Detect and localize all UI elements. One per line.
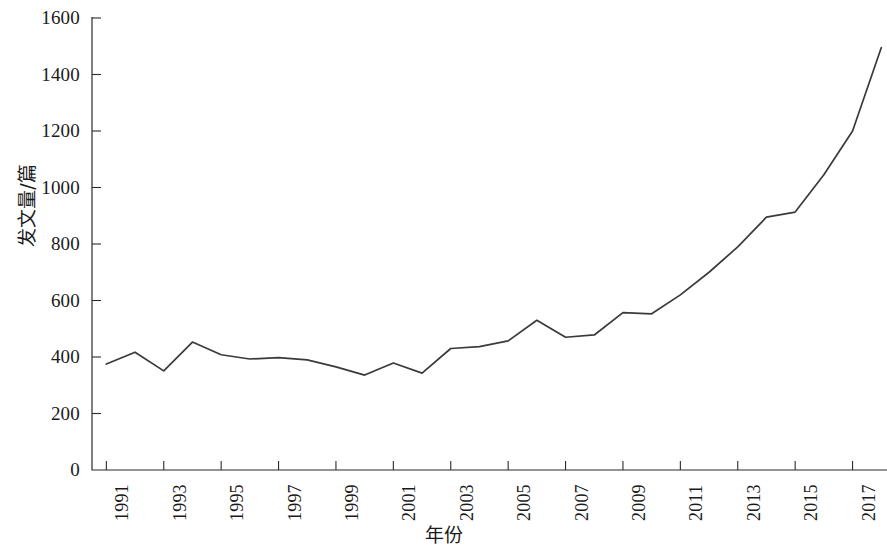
- y-tick-label: 1200: [0, 121, 80, 140]
- x-tick-label: 1999: [343, 484, 361, 521]
- axis-lines: [92, 17, 887, 470]
- y-tick-label: 1000: [0, 178, 80, 197]
- data-series-group: [106, 48, 881, 375]
- line-chart: 02004006008001000120014001600 1991199319…: [0, 0, 887, 554]
- x-tick-label: 2003: [458, 484, 476, 521]
- x-tick-label: 1997: [286, 484, 304, 521]
- x-tick-label: 2017: [860, 484, 878, 521]
- x-tick-label: 2009: [630, 484, 648, 521]
- y-tick-label: 1600: [0, 8, 80, 27]
- series-line-publication-count: [106, 48, 881, 375]
- plot-area: [0, 0, 887, 554]
- x-axis-title: 年份: [0, 526, 887, 545]
- y-tick-label: 600: [0, 291, 80, 310]
- x-tick-label: 2007: [573, 484, 591, 521]
- x-tick-label: 2015: [802, 484, 820, 521]
- x-tick-label: 2013: [745, 484, 763, 521]
- x-tick-label: 2005: [515, 484, 533, 521]
- y-axis-title: 发文量/篇: [18, 141, 37, 271]
- y-axis-ticks: [92, 18, 101, 414]
- y-tick-label: 800: [0, 234, 80, 253]
- x-tick-label: 2001: [400, 484, 418, 521]
- x-axis-ticks: [106, 461, 852, 470]
- y-tick-label: 400: [0, 347, 80, 366]
- x-tick-label: 1991: [113, 484, 131, 521]
- y-tick-label: 200: [0, 404, 80, 423]
- x-tick-label: 2011: [687, 485, 705, 521]
- x-tick-label: 1995: [228, 484, 246, 521]
- x-tick-label: 1993: [171, 484, 189, 521]
- y-tick-label: 1400: [0, 65, 80, 84]
- axes: [92, 17, 887, 470]
- y-tick-label: 0: [0, 460, 80, 479]
